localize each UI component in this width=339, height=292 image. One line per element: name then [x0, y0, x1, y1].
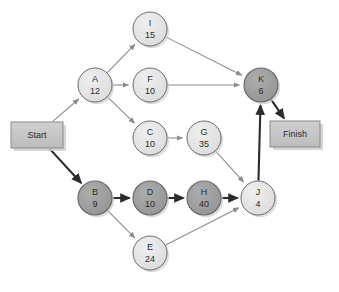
node-circle[interactable]	[133, 181, 167, 215]
node-circle[interactable]	[78, 181, 112, 215]
activity-node-h[interactable]: H40	[187, 181, 223, 217]
node-circle[interactable]	[133, 12, 167, 46]
edge-i-to-k	[166, 37, 242, 75]
edge-g-to-j	[216, 151, 244, 182]
activity-node-g[interactable]: G35	[187, 121, 223, 157]
node-circle[interactable]	[133, 236, 167, 270]
node-circle[interactable]	[187, 181, 221, 215]
edge-k-to-finish	[271, 99, 284, 118]
project-network-diagram: StartFinish I15A12F10K6C10G35B9D10H40J4E…	[0, 0, 339, 292]
activity-node-k[interactable]: K6	[244, 68, 280, 104]
edge-a-to-i	[107, 44, 135, 72]
network-canvas: StartFinish I15A12F10K6C10G35B9D10H40J4E…	[0, 0, 339, 292]
node-circle[interactable]	[78, 68, 112, 102]
edge-start-to-a	[52, 99, 78, 122]
activity-node-i[interactable]: I15	[133, 12, 169, 48]
node-circle[interactable]	[133, 68, 167, 102]
activity-node-b[interactable]: B9	[78, 181, 114, 217]
terminal-box[interactable]	[270, 121, 320, 147]
edge-b-to-e	[107, 210, 134, 237]
node-layer: I15A12F10K6C10G35B9D10H40J4E24	[78, 12, 280, 272]
activity-node-c[interactable]: C10	[133, 121, 169, 157]
edge-start-to-b	[49, 148, 81, 183]
activity-node-d[interactable]: D10	[133, 181, 169, 217]
activity-node-f[interactable]: F10	[133, 68, 169, 104]
terminal-start[interactable]: Start	[11, 122, 66, 151]
activity-node-j[interactable]: J4	[241, 181, 277, 217]
node-circle[interactable]	[133, 121, 167, 155]
terminal-finish[interactable]: Finish	[270, 121, 323, 150]
edge-j-to-k	[258, 105, 260, 180]
activity-node-a[interactable]: A12	[78, 68, 114, 104]
node-circle[interactable]	[241, 181, 275, 215]
node-circle[interactable]	[244, 68, 278, 102]
terminal-box[interactable]	[11, 122, 63, 148]
node-circle[interactable]	[187, 121, 221, 155]
activity-node-e[interactable]: E24	[133, 236, 169, 272]
edge-a-to-c	[108, 97, 135, 123]
